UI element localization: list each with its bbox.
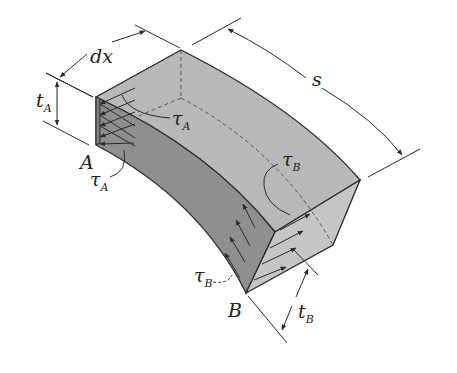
label-point-B: B	[227, 299, 242, 321]
left-face	[96, 97, 100, 145]
label-tauA-side: τA	[90, 168, 109, 194]
label-tA: tA	[36, 89, 52, 115]
tube-element-diagram: dx s tA A τA τA τB τB B tB	[0, 0, 457, 373]
tauB2-leader	[213, 275, 232, 282]
label-tB: tB	[298, 300, 314, 326]
diagram-canvas: dx s tA A τA τA τB τB B tB	[0, 0, 457, 373]
label-tauB-side: τB	[194, 264, 213, 290]
label-s: s	[312, 68, 322, 90]
label-dx: dx	[90, 45, 113, 67]
